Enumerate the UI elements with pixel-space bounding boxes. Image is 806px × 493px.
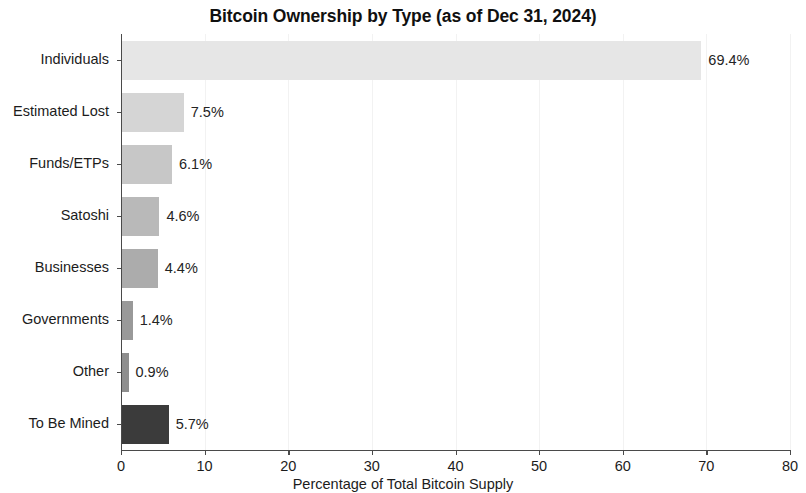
bar-row: 4.4% bbox=[121, 249, 790, 288]
bar bbox=[121, 145, 172, 184]
bar-row: 5.7% bbox=[121, 405, 790, 444]
bar bbox=[121, 197, 159, 236]
bar-row: 4.6% bbox=[121, 197, 790, 236]
x-tick-label: 20 bbox=[280, 458, 296, 474]
x-tick-mark bbox=[288, 451, 289, 455]
y-tick-label-satoshi: Satoshi bbox=[0, 207, 109, 223]
bar bbox=[121, 249, 158, 288]
gridline bbox=[790, 34, 791, 450]
x-tick-label: 50 bbox=[531, 458, 547, 474]
x-tick-label: 40 bbox=[447, 458, 463, 474]
y-tick-label-to-be-mined: To Be Mined bbox=[0, 415, 109, 431]
x-tick-mark bbox=[790, 451, 791, 455]
bar bbox=[121, 41, 701, 80]
bar-value-label: 7.5% bbox=[184, 104, 224, 120]
y-tick-mark bbox=[117, 164, 121, 165]
y-tick-mark bbox=[117, 268, 121, 269]
bar-value-label: 4.6% bbox=[159, 208, 199, 224]
bar-value-label: 6.1% bbox=[172, 156, 212, 172]
y-tick-label-businesses: Businesses bbox=[0, 259, 109, 275]
bar-value-label: 0.9% bbox=[129, 364, 169, 380]
y-tick-mark bbox=[117, 320, 121, 321]
x-tick-label: 0 bbox=[117, 458, 125, 474]
x-axis-title: Percentage of Total Bitcoin Supply bbox=[0, 476, 806, 492]
bar-value-label: 69.4% bbox=[701, 52, 749, 68]
y-tick-label-other: Other bbox=[0, 363, 109, 379]
x-tick-label: 60 bbox=[615, 458, 631, 474]
x-tick-mark bbox=[121, 451, 122, 455]
plot-area: 69.4%7.5%6.1%4.6%4.4%1.4%0.9%5.7% bbox=[121, 34, 790, 450]
bar bbox=[121, 405, 169, 444]
x-tick-label: 10 bbox=[197, 458, 213, 474]
x-tick-mark bbox=[623, 451, 624, 455]
y-axis-spine bbox=[121, 34, 122, 451]
y-tick-mark bbox=[117, 112, 121, 113]
bar-row: 6.1% bbox=[121, 145, 790, 184]
y-tick-label-funds-etps: Funds/ETPs bbox=[0, 155, 109, 171]
chart-title: Bitcoin Ownership by Type (as of Dec 31,… bbox=[0, 6, 806, 27]
y-tick-mark bbox=[117, 372, 121, 373]
y-tick-mark bbox=[117, 60, 121, 61]
y-tick-mark bbox=[117, 424, 121, 425]
x-tick-mark bbox=[456, 451, 457, 455]
y-tick-mark bbox=[117, 216, 121, 217]
bar-row: 7.5% bbox=[121, 93, 790, 132]
bar-value-label: 1.4% bbox=[133, 312, 173, 328]
chart-figure: Bitcoin Ownership by Type (as of Dec 31,… bbox=[0, 0, 806, 493]
x-tick-mark bbox=[539, 451, 540, 455]
bar-value-label: 4.4% bbox=[158, 260, 198, 276]
bar-row: 0.9% bbox=[121, 353, 790, 392]
y-tick-label-individuals: Individuals bbox=[0, 51, 109, 67]
x-tick-mark bbox=[706, 451, 707, 455]
y-tick-label-estimated-lost: Estimated Lost bbox=[0, 103, 109, 119]
bar-value-label: 5.7% bbox=[169, 416, 209, 432]
bar bbox=[121, 301, 133, 340]
x-tick-mark bbox=[205, 451, 206, 455]
y-tick-label-governments: Governments bbox=[0, 311, 109, 327]
bar-row: 1.4% bbox=[121, 301, 790, 340]
x-tick-mark bbox=[372, 451, 373, 455]
bar bbox=[121, 93, 184, 132]
x-tick-label: 30 bbox=[364, 458, 380, 474]
x-tick-label: 80 bbox=[782, 458, 798, 474]
x-tick-label: 70 bbox=[698, 458, 714, 474]
bar-row: 69.4% bbox=[121, 41, 790, 80]
